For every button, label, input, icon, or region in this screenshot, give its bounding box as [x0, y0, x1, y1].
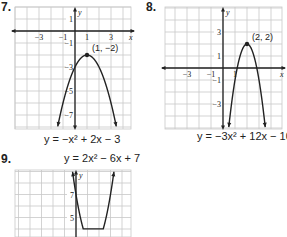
equation-9: y = 2x² − 6x + 7: [64, 152, 140, 164]
svg-text:7: 7: [70, 191, 74, 200]
svg-text:y: y: [78, 171, 83, 180]
svg-text:1: 1: [69, 15, 73, 24]
vertex-label: (2, 2): [252, 32, 273, 42]
equation-8: y = −3x² + 12x − 10: [197, 130, 287, 142]
svg-text:3: 3: [109, 33, 113, 42]
svg-text:y: y: [225, 8, 230, 17]
axes: [161, 7, 286, 130]
svg-text:−3: −3: [212, 100, 221, 109]
vertex-label: (1, −2): [92, 43, 118, 53]
svg-text:−3: −3: [64, 63, 73, 72]
svg-text:y: y: [77, 8, 82, 17]
svg-text:5: 5: [70, 214, 74, 223]
svg-text:1: 1: [217, 52, 221, 61]
svg-text:−5: −5: [64, 87, 73, 96]
svg-text:−7: −7: [64, 111, 73, 120]
vertex-point: [85, 53, 89, 57]
vertex-point: [245, 42, 249, 46]
equation-7: y = −x² + 2x − 3: [44, 133, 120, 145]
svg-text:−1: −1: [64, 39, 73, 48]
axes: [67, 170, 78, 237]
svg-text:x: x: [128, 33, 133, 42]
svg-text:−1: −1: [212, 76, 221, 85]
graph-7: [11, 7, 135, 130]
parabola-curve: [71, 172, 115, 229]
svg-text:−3: −3: [35, 33, 44, 42]
svg-text:x: x: [279, 70, 284, 79]
svg-text:1: 1: [85, 33, 89, 42]
graphs-canvas: xy−3−1131−1−3−5−7(1, −2)xy−3−1131−1−3(2,…: [0, 0, 287, 237]
graph-9: [15, 170, 131, 237]
svg-text:3: 3: [217, 28, 221, 37]
axes: [11, 7, 135, 130]
svg-text:1: 1: [233, 70, 237, 79]
svg-text:−3: −3: [183, 70, 192, 79]
graph-8: [161, 7, 286, 130]
